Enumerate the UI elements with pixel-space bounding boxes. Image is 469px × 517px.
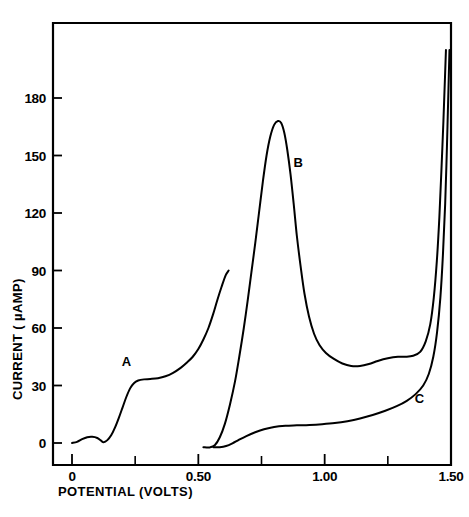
figure-container: 0306090120150180 00.501.001.50 ABC CURRE… [0,0,469,517]
curve-label-b: B [293,155,302,170]
y-tick-label-1: 30 [32,379,46,394]
y-tick-label-2: 60 [32,321,46,336]
x-axis-tick-labels: 00.501.001.50 [68,469,463,484]
y-tick-label-4: 120 [24,206,46,221]
x-axis-ticks [72,454,451,465]
plot-frame [53,23,451,465]
curve-a [72,271,229,444]
voltammogram-chart: 0306090120150180 00.501.001.50 ABC CURRE… [0,0,469,517]
y-axis-title: CURRENT ( µAMP) [10,278,25,400]
x-axis-title: POTENTIAL (VOLTS) [58,484,193,499]
y-tick-label-0: 0 [39,436,46,451]
x-tick-label-3: 1.50 [438,469,463,484]
axes-frame [53,23,451,465]
y-axis-ticks [53,98,62,443]
y-tick-label-5: 150 [24,149,46,164]
y-tick-label-6: 180 [24,91,46,106]
curve-label-a: A [122,354,132,369]
x-tick-label-0: 0 [68,469,75,484]
curve-c [213,50,449,447]
curve-b [203,50,446,447]
data-curves [72,50,449,447]
curve-annotations: ABC [122,155,425,406]
y-axis-tick-labels: 0306090120150180 [24,91,46,451]
x-tick-label-2: 1.00 [312,469,337,484]
x-tick-label-1: 0.50 [186,469,211,484]
y-tick-label-3: 90 [32,264,46,279]
curve-label-c: C [415,391,425,406]
